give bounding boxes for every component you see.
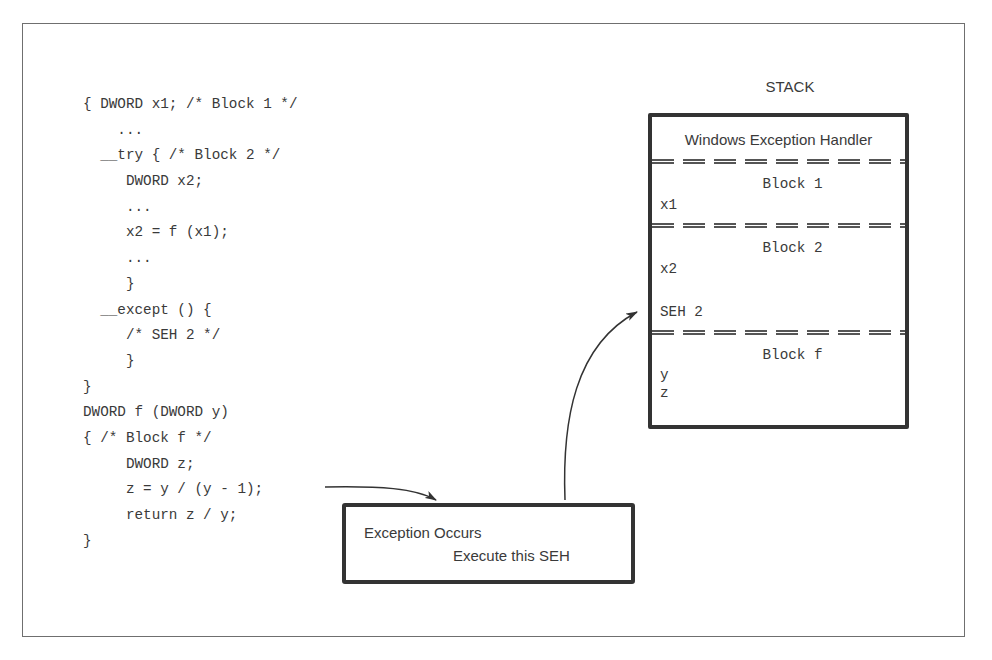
arrows-layer	[0, 0, 992, 660]
arrow-exception-to-box-icon	[325, 487, 436, 500]
arrow-box-to-seh-icon	[565, 312, 637, 500]
